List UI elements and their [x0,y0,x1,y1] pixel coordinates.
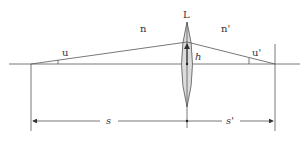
thin-lens-diagram: L n n' u u' h s s' [0,0,306,141]
angle-u-prime-label: u' [252,47,261,58]
incident-ray [31,42,187,64]
image-index-label: n' [221,23,230,34]
lens-label: L [183,9,190,20]
object-index-label: n [140,23,147,34]
image-distance-label: s' [226,115,234,126]
angle-u-label: u [62,47,69,58]
height-label: h [195,51,201,62]
lens-dimension-point [186,120,188,122]
axis-point [186,63,188,65]
object-distance-label: s [106,115,111,126]
